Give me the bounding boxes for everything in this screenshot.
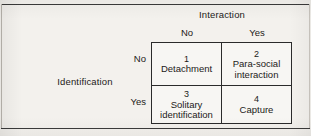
- matrix-cell-4-number: 4: [254, 94, 259, 104]
- column-dimension-title: Interaction: [152, 9, 292, 20]
- matrix-cell-2-number: 2: [254, 49, 259, 59]
- matrix-cell-3-label: Solitary identification: [160, 100, 213, 121]
- matrix-grid: 1 Detachment 2 Para-social interaction 3…: [151, 42, 292, 124]
- column-header-no: No: [152, 27, 222, 38]
- row-header-no: No: [116, 53, 146, 64]
- row-dimension-title: Identification: [10, 76, 160, 87]
- matrix-figure: Interaction No Yes Identification No Yes…: [0, 0, 311, 136]
- matrix-cell-1-label: Detachment: [161, 64, 212, 75]
- matrix-cell-2-label: Para-social interaction: [233, 59, 281, 80]
- right-edge-line: [309, 4, 310, 129]
- matrix-cell-4: 4 Capture: [222, 86, 291, 123]
- column-header-yes: Yes: [222, 27, 292, 38]
- matrix-cell-1: 1 Detachment: [152, 43, 222, 86]
- matrix-cell-3-number: 3: [184, 89, 189, 99]
- row-header-yes: Yes: [116, 96, 146, 107]
- top-divider-rule: [1, 4, 310, 5]
- left-edge-line: [1, 4, 2, 129]
- matrix-cell-4-label: Capture: [240, 105, 274, 116]
- matrix-cell-2: 2 Para-social interaction: [222, 43, 291, 86]
- matrix-cell-1-number: 1: [184, 54, 189, 64]
- matrix-cell-3: 3 Solitary identification: [152, 86, 222, 123]
- bottom-divider-rule: [1, 128, 310, 129]
